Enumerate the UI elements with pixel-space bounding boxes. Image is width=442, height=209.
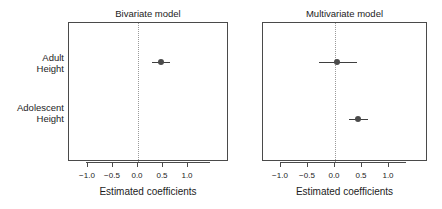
row-label-adolescent-height: Adolescent Height — [0, 102, 64, 124]
x-tick-bivariate-1 — [112, 162, 113, 167]
zero-reference-line-bivariate — [138, 23, 139, 162]
row-label-adolescent-line1: Adolescent — [0, 102, 64, 113]
x-tick-multivariate-1 — [307, 162, 308, 167]
x-tick-label-multivariate-4: 1.0 — [373, 171, 403, 180]
row-label-adult-height: Adult Height — [0, 52, 64, 74]
panel-title-multivariate: Multivariate model — [262, 8, 427, 20]
x-axis-title-multivariate: Estimated coefficients — [262, 186, 427, 198]
plot-frame-multivariate — [262, 22, 427, 161]
row-label-adult-line1: Adult — [0, 52, 64, 63]
x-tick-multivariate-3 — [361, 162, 362, 167]
x-tick-label-multivariate-0: −1.0 — [265, 171, 295, 180]
zero-reference-line-multivariate — [335, 23, 336, 162]
panel-title-bivariate: Bivariate model — [68, 8, 228, 20]
x-tick-bivariate-2 — [137, 162, 138, 167]
x-tick-label-multivariate-1: −0.5 — [292, 171, 322, 180]
panel-bivariate: Bivariate model −1.0 −0.5 0.0 0.5 1.0 Es… — [68, 0, 228, 209]
x-tick-label-multivariate-3: 0.5 — [346, 171, 376, 180]
row-label-adult-line2: Height — [0, 63, 64, 74]
x-tick-bivariate-3 — [162, 162, 163, 167]
row-label-adolescent-line2: Height — [0, 113, 64, 124]
forest-plot-figure: Adult Height Adolescent Height Bivariate… — [0, 0, 442, 209]
x-tick-multivariate-0 — [280, 162, 281, 167]
plot-frame-bivariate — [68, 22, 228, 161]
x-axis-title-bivariate: Estimated coefficients — [68, 186, 228, 198]
x-tick-multivariate-2 — [334, 162, 335, 167]
point-marker-multivariate-adolescent-height — [355, 116, 361, 122]
x-tick-label-bivariate-4: 1.0 — [172, 171, 202, 180]
x-tick-multivariate-4 — [388, 162, 389, 167]
x-axis-line-bivariate — [86, 162, 210, 163]
x-tick-bivariate-4 — [187, 162, 188, 167]
point-marker-bivariate-adult-height — [158, 59, 164, 65]
x-tick-bivariate-0 — [87, 162, 88, 167]
point-marker-multivariate-adult-height — [334, 59, 340, 65]
x-tick-label-multivariate-2: 0.0 — [319, 171, 349, 180]
panel-multivariate: Multivariate model −1.0 −0.5 0.0 0.5 1.0 — [262, 0, 427, 209]
